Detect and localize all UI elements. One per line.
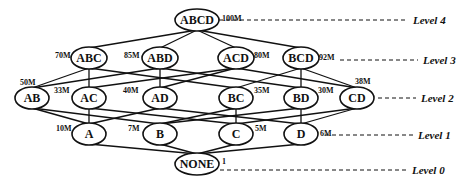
level4-label: Level 4 <box>412 14 446 26</box>
node-label: AC <box>80 91 97 105</box>
edge-acd-cd <box>236 68 357 88</box>
edge-ab-b <box>32 108 160 124</box>
edge-abcd-acd <box>197 30 236 48</box>
node-a: A10M <box>56 123 106 145</box>
node-size-label: 7M <box>128 124 140 133</box>
level2-label: Level 2 <box>420 92 454 104</box>
lattice-diagram: Level 4Level 3Level 2Level 1Level 0 ABCD… <box>0 0 463 186</box>
node-cd: CD38M <box>340 77 374 109</box>
node-ab: AB50M <box>15 78 49 109</box>
node-label: A <box>85 127 94 141</box>
node-size-label: 85M <box>124 51 140 60</box>
node-ad: AD40M <box>123 86 177 109</box>
node-label: BC <box>228 91 245 105</box>
node-label: BD <box>293 91 310 105</box>
node-size-label: 92M <box>319 53 335 62</box>
edge-cd-c <box>236 108 357 124</box>
node-bd: BD30M <box>284 86 334 109</box>
edge-abd-ab <box>32 68 160 88</box>
node-label: ABCD <box>180 13 214 27</box>
node-label: C <box>232 127 241 141</box>
lattice-nodes: ABCD100MABC70MABD85MACD80MBCD92MAB50MAC3… <box>15 9 374 175</box>
node-label: ABC <box>76 51 101 65</box>
edge-abc-ab <box>32 68 89 88</box>
node-none: NONE1 <box>175 153 226 175</box>
node-ac: AC33M <box>54 86 106 109</box>
node-label: B <box>156 127 164 141</box>
edge-bcd-bc <box>236 68 301 88</box>
node-label: AD <box>151 91 169 105</box>
node-label: D <box>297 127 306 141</box>
node-abc: ABC70M <box>55 47 107 69</box>
edge-abd-bd <box>160 68 301 88</box>
node-abd: ABD85M <box>124 47 178 69</box>
node-size-label: 50M <box>20 78 36 87</box>
level1-label: Level 1 <box>417 129 451 141</box>
edge-abcd-bcd <box>197 30 301 48</box>
edge-d-none <box>197 144 301 154</box>
edge-cd-d <box>301 108 357 124</box>
node-label: ACD <box>223 51 249 65</box>
node-size-label: 40M <box>123 86 139 95</box>
node-label: ABD <box>147 51 173 65</box>
node-label: NONE <box>180 157 215 171</box>
edge-ab-a <box>32 108 89 124</box>
node-size-label: 1 <box>222 157 226 166</box>
node-size-label: 30M <box>318 86 334 95</box>
node-label: AB <box>24 91 41 105</box>
node-size-label: 33M <box>54 86 70 95</box>
node-size-label: 5M <box>255 124 267 133</box>
node-size-label: 38M <box>355 77 371 86</box>
edge-bcd-cd <box>301 68 357 88</box>
node-label: BCD <box>288 51 314 65</box>
node-label: CD <box>348 91 366 105</box>
node-b: B7M <box>128 123 177 145</box>
level0-label: Level 0 <box>411 164 445 176</box>
node-bc: BC35M <box>219 86 270 109</box>
node-size-label: 80M <box>254 51 270 60</box>
node-bcd: BCD92M <box>283 47 335 69</box>
node-acd: ACD80M <box>218 47 270 69</box>
edge-acd-ad <box>160 68 236 88</box>
node-size-label: 70M <box>55 51 71 60</box>
edge-abcd-abc <box>89 30 197 48</box>
node-d: D6M <box>284 123 332 145</box>
node-c: C5M <box>219 123 267 145</box>
node-size-label: 100M <box>222 14 242 23</box>
edge-ac-c <box>89 108 236 124</box>
node-size-label: 6M <box>320 129 332 138</box>
edge-bc-b <box>160 108 236 124</box>
node-size-label: 10M <box>56 124 72 133</box>
level3-label: Level 3 <box>422 54 456 66</box>
node-abcd: ABCD100M <box>175 9 242 31</box>
node-size-label: 35M <box>254 86 270 95</box>
